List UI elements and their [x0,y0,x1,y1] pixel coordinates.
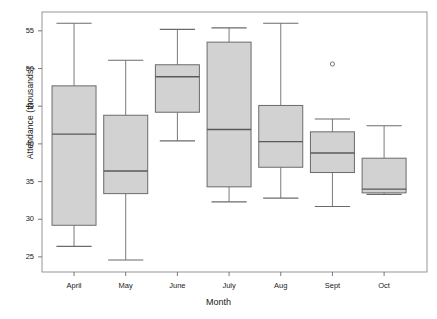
boxplot-figure: Attendance (thousands) Month 25303540455… [0,0,437,319]
y-tick-label: 45 [10,101,34,110]
box-body [207,42,251,187]
box-plot-june [155,29,199,141]
x-axis-title: Month [0,297,437,307]
box-plot-april [52,23,96,246]
box-plot-may [104,60,148,260]
y-tick-label: 35 [10,177,34,186]
box-body [362,158,406,193]
box-body [104,115,148,193]
box-plot-sept [310,62,354,207]
y-tick-label: 55 [10,26,34,35]
plot-area [0,0,437,319]
box-body [310,132,354,173]
y-tick-label: 50 [10,64,34,73]
box-plot-july [207,28,251,202]
x-tick-label-oct: Oct [354,281,414,290]
outlier-point [330,62,334,66]
box-body [52,86,96,225]
y-tick-label: 25 [10,252,34,261]
y-tick-label: 40 [10,139,34,148]
box-body [259,105,303,167]
y-tick-label: 30 [10,214,34,223]
box-plot-aug [259,23,303,198]
box-body [155,65,199,112]
box-plot-oct [362,126,406,195]
